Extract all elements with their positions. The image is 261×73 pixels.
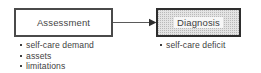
list-item-label: self-care demand: [26, 40, 94, 50]
diagnosis-bullet-list: self-care deficit: [160, 40, 226, 51]
bullet-point-icon: [20, 44, 22, 46]
node-assessment[interactable]: Assessment: [14, 8, 113, 37]
node-diagnosis-label: Diagnosis: [174, 17, 223, 29]
list-item: limitations: [20, 61, 94, 72]
bullet-point-icon: [160, 44, 162, 46]
list-item: self-care demand: [20, 40, 94, 51]
list-item: assets: [20, 51, 94, 62]
node-assessment-label: Assessment: [37, 18, 90, 28]
flow-diagram: Assessment Diagnosis self-care demand as…: [0, 0, 261, 73]
bullet-point-icon: [20, 65, 22, 67]
list-item-label: limitations: [26, 61, 65, 71]
arrow-assessment-to-diagnosis-icon: [113, 16, 157, 29]
assessment-bullet-list: self-care demand assets limitations: [20, 40, 94, 72]
list-item: self-care deficit: [160, 40, 226, 51]
node-diagnosis[interactable]: Diagnosis: [156, 8, 241, 37]
list-item-label: assets: [26, 51, 51, 61]
bullet-point-icon: [20, 55, 22, 57]
list-item-label: self-care deficit: [166, 40, 226, 50]
